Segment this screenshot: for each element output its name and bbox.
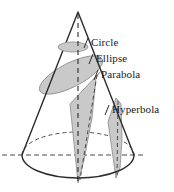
- parabola-section-shape: [70, 72, 100, 183]
- hyperbola-leader-tick: [105, 105, 109, 115]
- circle-section-shape: [58, 42, 88, 52]
- label-circle: Circle: [91, 37, 118, 48]
- label-hyperbola: Hyperbola: [112, 104, 159, 115]
- conic-sections-figure: Circle Ellipse Parabola Hyperbola: [0, 0, 174, 192]
- cone-diagram-svg: [0, 0, 174, 192]
- label-ellipse: Ellipse: [96, 53, 127, 64]
- label-parabola: Parabola: [101, 69, 140, 80]
